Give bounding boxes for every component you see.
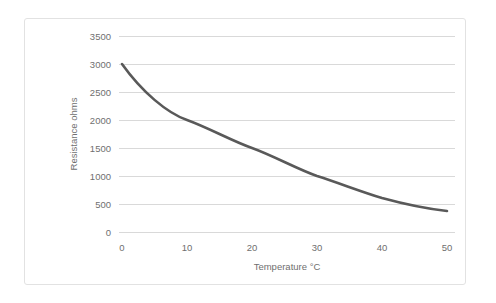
x-tick-label-0: 0 [119, 242, 124, 253]
y-tick-label-1500: 1500 [90, 143, 111, 154]
y-axis-tick-labels: 3500 3000 2500 2000 1500 1000 500 0 [90, 31, 111, 238]
y-tick-label-2500: 2500 [90, 87, 111, 98]
x-tick-label-40: 40 [377, 242, 388, 253]
x-tick-label-20: 20 [247, 242, 258, 253]
resistance-vs-temperature-line-chart: 3500 3000 2500 2000 1500 1000 500 0 0 10… [25, 19, 465, 284]
x-axis-tick-labels: 0 10 20 30 40 50 [119, 242, 452, 253]
y-tick-label-3500: 3500 [90, 31, 111, 42]
x-tick-label-50: 50 [442, 242, 453, 253]
chart-frame: 3500 3000 2500 2000 1500 1000 500 0 0 10… [24, 18, 466, 285]
y-axis-title: Resistance ohms [68, 97, 79, 170]
resistance-series-line [122, 64, 447, 211]
y-tick-label-2000: 2000 [90, 115, 111, 126]
y-tick-label-0: 0 [106, 227, 111, 238]
y-tick-label-500: 500 [95, 199, 111, 210]
x-tick-label-10: 10 [182, 242, 193, 253]
y-tick-label-3000: 3000 [90, 59, 111, 70]
y-tick-label-1000: 1000 [90, 171, 111, 182]
x-axis-title: Temperature °C [254, 261, 321, 272]
x-tick-label-30: 30 [312, 242, 323, 253]
